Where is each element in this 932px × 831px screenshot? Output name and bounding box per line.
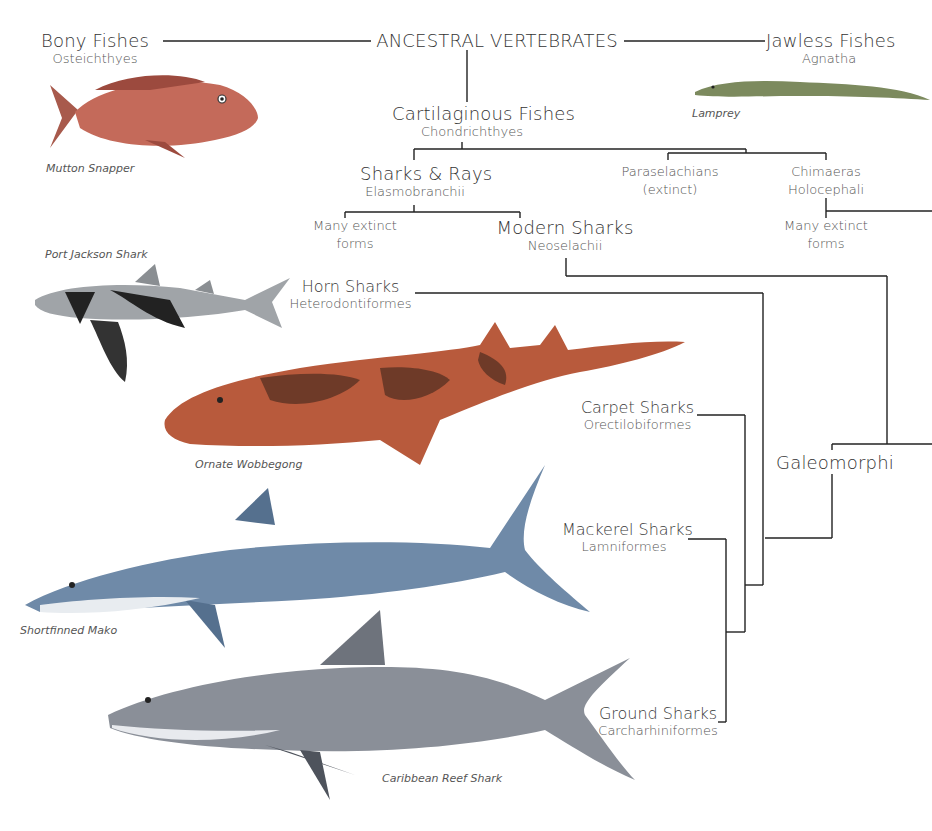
- paraselachians-sci: (extinct): [610, 181, 730, 199]
- jawless-fishes-sci: Agnatha: [766, 51, 892, 66]
- modern-sharks-sci: Neoselachii: [495, 238, 635, 253]
- node-ancestral-vertebrates: ANCESTRAL VERTEBRATES: [372, 30, 622, 51]
- node-many-extinct-forms-left: Many extinct forms: [300, 217, 410, 253]
- modern-sharks-name: Modern Sharks: [495, 217, 635, 238]
- mackerel-sharks-sci: Lamniformes: [562, 539, 686, 554]
- horn-sharks-name: Horn Sharks: [288, 277, 413, 296]
- node-ground-sharks: Ground Sharks Carcharhiniformes: [596, 704, 720, 738]
- bony-fishes-sci: Osteichthyes: [30, 51, 160, 66]
- node-many-extinct-forms-right: Many extinct forms: [776, 217, 876, 253]
- caption-shortfinned-mako: Shortfinned Mako: [20, 624, 117, 637]
- node-modern-sharks: Modern Sharks Neoselachii: [495, 217, 635, 253]
- caption-caribbean-reef: Caribbean Reef Shark: [382, 772, 502, 785]
- node-sharks-rays: Sharks & Rays Elasmobranchii: [360, 163, 470, 199]
- chimaeras-sci: Holocephali: [776, 181, 876, 199]
- caption-lamprey: Lamprey: [692, 107, 740, 120]
- extinct-left-line1: Many extinct: [300, 217, 410, 235]
- node-chimaeras: Chimaeras Holocephali: [776, 163, 876, 199]
- paraselachians-name: Paraselachians: [610, 163, 730, 181]
- extinct-right-line2: forms: [776, 235, 876, 253]
- jawless-fishes-name: Jawless Fishes: [766, 30, 892, 51]
- sharks-rays-sci: Elasmobranchii: [360, 184, 470, 199]
- ground-sharks-sci: Carcharhiniformes: [596, 723, 720, 738]
- mackerel-sharks-name: Mackerel Sharks: [562, 520, 686, 539]
- extinct-right-line1: Many extinct: [776, 217, 876, 235]
- node-galeomorphi: Galeomorphi: [776, 452, 892, 473]
- cartilaginous-name: Cartilaginous Fishes: [392, 103, 552, 124]
- extinct-left-line2: forms: [300, 235, 410, 253]
- carpet-sharks-name: Carpet Sharks: [580, 398, 695, 417]
- node-paraselachians: Paraselachians (extinct): [610, 163, 730, 199]
- horn-sharks-sci: Heterodontiformes: [288, 296, 413, 311]
- ground-sharks-name: Ground Sharks: [596, 704, 720, 723]
- carpet-sharks-sci: Orectilobiformes: [580, 417, 695, 432]
- node-jawless-fishes: Jawless Fishes Agnatha: [766, 30, 892, 66]
- cartilaginous-sci: Chondrichthyes: [392, 124, 552, 139]
- node-carpet-sharks: Carpet Sharks Orectilobiformes: [580, 398, 695, 432]
- node-bony-fishes: Bony Fishes Osteichthyes: [30, 30, 160, 66]
- sharks-rays-name: Sharks & Rays: [360, 163, 470, 184]
- caption-port-jackson: Port Jackson Shark: [45, 248, 148, 261]
- node-cartilaginous-fishes: Cartilaginous Fishes Chondrichthyes: [392, 103, 552, 139]
- chimaeras-name: Chimaeras: [776, 163, 876, 181]
- bony-fishes-name: Bony Fishes: [30, 30, 160, 51]
- node-horn-sharks: Horn Sharks Heterodontiformes: [288, 277, 413, 311]
- caption-ornate-wobbegong: Ornate Wobbegong: [195, 458, 302, 471]
- caption-mutton-snapper: Mutton Snapper: [46, 162, 134, 175]
- node-mackerel-sharks: Mackerel Sharks Lamniformes: [562, 520, 686, 554]
